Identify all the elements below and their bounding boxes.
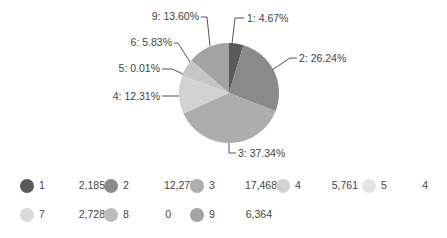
legend-item-8[interactable]: 8 0 (104, 207, 118, 223)
legend-value: 4 (373, 179, 428, 191)
legend-label: 9 (209, 208, 215, 220)
leader-line (232, 18, 244, 44)
legend-value: 2,185 (50, 179, 105, 191)
legend-item-1[interactable]: 1 2,185 (20, 178, 34, 194)
legend-value: 2,728 (50, 208, 105, 220)
leader-line (162, 69, 183, 74)
slice-label-6: 6: 5.83% (131, 36, 172, 48)
legend-item-3[interactable]: 3 17,468 (190, 178, 204, 194)
legend-label: 7 (39, 208, 45, 220)
legend-value: 5,761 (303, 179, 358, 191)
pie-slices (179, 43, 279, 143)
slice-label-2: 2: 26.24% (299, 52, 346, 64)
slice-label-4: 4: 12.31% (113, 90, 160, 102)
legend-label: 1 (39, 179, 45, 191)
slice-label-9: 9: 13.60% (152, 10, 199, 22)
legend-item-2[interactable]: 2 12,275 (104, 178, 118, 194)
leader-line (201, 17, 210, 46)
leader-line (272, 58, 297, 70)
slice-label-5: 5: 0.01% (119, 62, 160, 74)
pie-chart: 1: 4.67% 2: 26.24% 3: 37.34% 4: 12.31% 5… (0, 0, 447, 160)
legend-label: 2 (123, 179, 129, 191)
leader-line (174, 43, 190, 62)
legend-swatch-icon (190, 208, 204, 222)
legend-label: 4 (295, 179, 301, 191)
legend-swatch-icon (276, 179, 290, 193)
legend-value: 6,364 (217, 208, 272, 220)
legend-item-4[interactable]: 4 5,761 (276, 178, 290, 194)
legend-swatch-icon (104, 179, 118, 193)
legend-label: 3 (209, 179, 215, 191)
legend-swatch-icon (20, 208, 34, 222)
legend-item-5[interactable]: 5 4 (362, 178, 376, 194)
legend-value: 12,275 (141, 179, 196, 191)
legend-item-7[interactable]: 7 2,728 (20, 207, 34, 223)
legend-swatch-icon (20, 179, 34, 193)
legend-swatch-icon (190, 179, 204, 193)
leader-line (229, 143, 236, 153)
legend-item-9[interactable]: 9 6,364 (190, 207, 204, 223)
slice-label-1: 1: 4.67% (247, 12, 288, 24)
legend-value: 17,468 (222, 179, 277, 191)
legend-value: 0 (116, 208, 171, 220)
slice-label-3: 3: 37.34% (238, 147, 285, 159)
